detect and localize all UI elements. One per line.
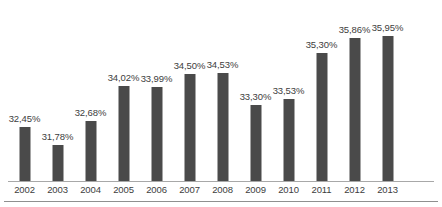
bar-group[interactable]: 32,68% xyxy=(74,0,107,181)
category-axis-line xyxy=(8,181,434,182)
category-tick-label: 2010 xyxy=(272,184,305,195)
bar-group[interactable]: 31,78% xyxy=(41,0,74,181)
bar[interactable] xyxy=(250,105,261,181)
bar[interactable] xyxy=(184,74,195,181)
bar-group[interactable]: 35,95% xyxy=(371,0,404,181)
bar-group[interactable]: 35,30% xyxy=(305,0,338,181)
category-tick-label: 2005 xyxy=(107,184,140,195)
category-tick-label: 2003 xyxy=(41,184,74,195)
category-tick-label: 2009 xyxy=(239,184,272,195)
bar[interactable] xyxy=(382,36,393,181)
bar-group[interactable]: 33,53% xyxy=(272,0,305,181)
category-tick-label: 2013 xyxy=(371,184,404,195)
bar-chart: 32,45%31,78%32,68%34,02%33,99%34,50%34,5… xyxy=(0,0,442,207)
bar-value-label: 35,95% xyxy=(372,22,404,33)
bar[interactable] xyxy=(316,53,327,181)
bar-value-label: 34,50% xyxy=(174,60,206,71)
bar-value-label: 35,30% xyxy=(306,39,338,50)
bar[interactable] xyxy=(283,99,294,181)
bar-value-label: 35,86% xyxy=(339,24,371,35)
category-tick-label: 2002 xyxy=(8,184,41,195)
bar-group[interactable]: 34,02% xyxy=(107,0,140,181)
bar-group[interactable]: 34,53% xyxy=(206,0,239,181)
bar[interactable] xyxy=(52,145,63,181)
category-tick-label: 2012 xyxy=(338,184,371,195)
bar-group[interactable]: 34,50% xyxy=(173,0,206,181)
category-tick-label: 2007 xyxy=(173,184,206,195)
bar-value-label: 31,78% xyxy=(42,131,74,142)
category-tick-labels: 2002200320042005200620072008200920102011… xyxy=(0,184,442,198)
bar-value-label: 34,02% xyxy=(108,72,140,83)
bar-value-label: 32,68% xyxy=(75,107,107,118)
bar[interactable] xyxy=(151,87,162,181)
bar[interactable] xyxy=(349,38,360,181)
bar-value-label: 33,53% xyxy=(273,85,305,96)
category-tick-label: 2008 xyxy=(206,184,239,195)
bar-value-label: 34,53% xyxy=(207,59,239,70)
bottom-rule xyxy=(4,201,438,202)
plot-area: 32,45%31,78%32,68%34,02%33,99%34,50%34,5… xyxy=(0,0,442,181)
category-tick-label: 2006 xyxy=(140,184,173,195)
bar-value-label: 32,45% xyxy=(9,113,41,124)
bar-value-label: 33,99% xyxy=(141,73,173,84)
bar[interactable] xyxy=(19,127,30,181)
bar[interactable] xyxy=(118,86,129,181)
bar-group[interactable]: 35,86% xyxy=(338,0,371,181)
category-tick-label: 2004 xyxy=(74,184,107,195)
bar-group[interactable]: 33,99% xyxy=(140,0,173,181)
category-tick-label: 2011 xyxy=(305,184,338,195)
bar[interactable] xyxy=(85,121,96,181)
bar-value-label: 33,30% xyxy=(240,91,272,102)
bar[interactable] xyxy=(217,73,228,181)
bar-group[interactable]: 33,30% xyxy=(239,0,272,181)
bar-group[interactable]: 32,45% xyxy=(8,0,41,181)
